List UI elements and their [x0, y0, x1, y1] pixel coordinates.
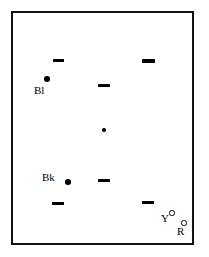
label-y: Y: [161, 213, 169, 224]
label-r: R: [177, 226, 184, 237]
dash-marker-4: [98, 179, 110, 183]
dash-marker-5: [52, 202, 64, 206]
dot-marker-center: [102, 128, 106, 132]
dot-marker-bk: [65, 179, 71, 185]
label-bk: Bk: [42, 172, 55, 183]
ring-marker-y: [169, 210, 174, 215]
dash-marker-1: [53, 59, 64, 63]
label-bl: Bl: [34, 85, 44, 96]
dash-marker-3: [98, 84, 110, 88]
dash-marker-6: [142, 201, 154, 205]
dash-marker-2: [142, 59, 155, 63]
diagram-frame: Bl Bk Y R: [11, 11, 194, 245]
figure-canvas: Bl Bk Y R: [0, 0, 209, 257]
dot-marker-bl: [44, 76, 50, 82]
